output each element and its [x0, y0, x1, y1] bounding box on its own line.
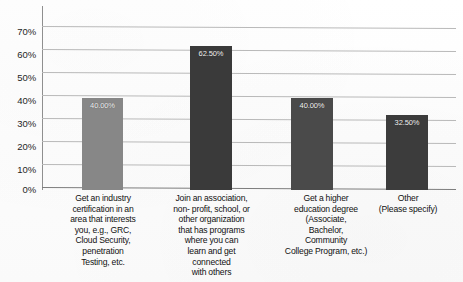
bar-certification[interactable]: 40.00% — [82, 98, 123, 190]
bar-value-label: 40.00% — [291, 101, 333, 110]
category-line: Other — [360, 193, 456, 204]
category-line: you, e.g., GRC, — [48, 225, 158, 236]
bar-value-label: 62.50% — [190, 49, 232, 58]
y-tick-label-10: 10% — [17, 165, 36, 175]
y-tick-label-70: 70% — [17, 27, 36, 37]
category-line: other organization — [152, 214, 271, 225]
category-line: (Please specify) — [360, 204, 456, 215]
bar-chart: 70% 60% 50% 40% 30% 20% 10% 0% 40.00% 62… — [0, 0, 463, 282]
category-line: (Associate, — [264, 214, 388, 225]
category-line: College Program, etc.) — [264, 246, 388, 257]
category-line: Get an industry — [48, 193, 158, 204]
bar-association[interactable]: 62.50% — [190, 46, 232, 190]
category-line: with others — [152, 267, 271, 278]
y-tick-label-20: 20% — [17, 142, 36, 152]
bar-value-label: 40.00% — [82, 101, 123, 110]
category-label-association: Join an association, non- profit, school… — [152, 193, 271, 278]
category-line: area that interests — [48, 214, 158, 225]
bar-other[interactable]: 32.50% — [386, 115, 428, 190]
y-tick-label-30: 30% — [17, 119, 36, 129]
category-line: connected — [152, 257, 271, 268]
category-line: Join an association, — [152, 193, 271, 204]
bar-value-label: 32.50% — [386, 118, 428, 127]
category-line: Testing, etc. — [48, 257, 158, 268]
category-line: penetration — [48, 246, 158, 257]
category-label-other: Other (Please specify) — [360, 193, 456, 214]
y-tick-label-60: 60% — [17, 50, 36, 60]
category-line: non- profit, school, or — [152, 204, 271, 215]
bars-layer: 40.00% 62.50% 40.00% 32.50% — [42, 6, 456, 190]
y-tick-label-40: 40% — [17, 96, 36, 106]
y-tick-label-0: 0% — [22, 185, 36, 195]
category-line: where you can — [152, 235, 271, 246]
category-line: Community — [264, 235, 388, 246]
category-line: Cloud Security, — [48, 235, 158, 246]
y-tick-label-50: 50% — [17, 73, 36, 83]
category-line: that has programs — [152, 225, 271, 236]
category-line: certification in an — [48, 204, 158, 215]
category-line: learn and get — [152, 246, 271, 257]
category-label-certification: Get an industry certification in an area… — [48, 193, 158, 267]
y-axis-tick-labels: 70% 60% 50% 40% 30% 20% 10% 0% — [0, 6, 42, 190]
category-line: Bachelor, — [264, 225, 388, 236]
x-axis-category-labels: Get an industry certification in an area… — [42, 193, 456, 279]
bar-higher-education[interactable]: 40.00% — [291, 98, 333, 190]
